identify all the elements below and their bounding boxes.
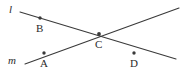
point-label-b: B	[36, 23, 43, 34]
line-m	[25, 8, 179, 64]
line-label-m: m	[8, 55, 16, 66]
point-b-dot	[38, 16, 41, 19]
point-a-dot	[42, 51, 45, 54]
line-label-l: l	[9, 4, 12, 15]
geometry-diagram: l m B A C D	[0, 0, 193, 79]
point-label-c: C	[95, 39, 102, 50]
point-label-a: A	[40, 58, 48, 69]
point-label-d: D	[130, 58, 138, 69]
point-c-dot	[97, 32, 101, 36]
point-d-dot	[132, 51, 135, 54]
